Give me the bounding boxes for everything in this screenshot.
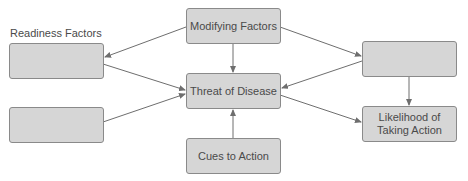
node-readiness-top xyxy=(9,43,104,79)
node-label-line1: Likelihood of xyxy=(379,111,441,124)
node-modifying-factors: Modifying Factors xyxy=(186,8,281,44)
node-right-top xyxy=(362,41,457,77)
node-likelihood-of-taking-action: Likelihood of Taking Action xyxy=(362,106,457,142)
edge-right-threat xyxy=(282,61,362,88)
node-threat-of-disease: Threat of Disease xyxy=(186,73,281,109)
edge-threat-likelihood xyxy=(280,95,361,122)
node-label: Threat of Disease xyxy=(190,85,277,98)
edge-readiness2-threat xyxy=(103,94,185,122)
readiness-factors-label: Readiness Factors xyxy=(10,27,102,39)
node-cues-to-action: Cues to Action xyxy=(186,138,281,174)
node-label-line2: Taking Action xyxy=(377,124,442,137)
edge-modifying-right xyxy=(280,27,361,56)
edge-readiness-threat xyxy=(103,64,185,90)
edge-modifying-readiness xyxy=(105,27,186,57)
node-readiness-bottom xyxy=(9,107,104,143)
node-label: Modifying Factors xyxy=(190,20,277,33)
node-label: Cues to Action xyxy=(198,150,269,163)
